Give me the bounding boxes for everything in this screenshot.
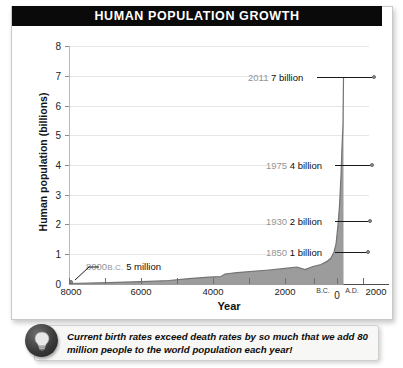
annotation-1930-leader xyxy=(335,221,369,222)
x-tick-mark-3000bc xyxy=(249,278,250,284)
y-tick-label-2: 2 xyxy=(47,219,61,230)
x-tick-mark-1000bc xyxy=(314,278,315,284)
annotation-1975-leader xyxy=(335,165,371,166)
x-tick-label-2000ad: 2000 xyxy=(365,286,386,297)
x-tick-label-2000bc: 2000 xyxy=(274,286,295,297)
y-tick-label-4: 4 xyxy=(47,160,61,171)
annotation-1975-year: 1975 xyxy=(266,160,287,171)
annotation-1850-leader xyxy=(335,252,367,253)
x-tick-mark-7000bc xyxy=(105,278,106,284)
annotation-2011: 2011 7 billion xyxy=(248,72,303,83)
x-tick-label-6000: 6000 xyxy=(130,286,151,297)
annotation-1850-value: 1 billion xyxy=(290,247,322,258)
x-axis-label: Year xyxy=(69,300,389,312)
x-tick-label-bc: B.C. xyxy=(316,287,330,294)
annotation-1930-value: 2 billion xyxy=(290,216,322,227)
annotation-2011-year: 2011 xyxy=(248,72,268,83)
y-tick-label-7: 7 xyxy=(47,70,61,81)
y-tick-label-6: 6 xyxy=(47,100,61,111)
annotation-1975: 1975 4 billion xyxy=(266,160,322,171)
x-tick-label-4000: 4000 xyxy=(202,286,223,297)
annotation-1975-dot xyxy=(370,163,374,167)
annotation-1930-year: 1930 xyxy=(266,216,287,227)
caption-text: Current birth rates exceed death rates b… xyxy=(67,330,370,356)
annotation-8000bc-value: 5 million xyxy=(126,261,161,272)
lightbulb-icon xyxy=(25,324,58,357)
annotation-1850-year: 1850 xyxy=(266,247,287,258)
y-tick-label-3: 3 xyxy=(47,189,61,200)
annotation-1930-dot xyxy=(368,219,372,223)
x-tick-mark-zero xyxy=(337,278,338,284)
x-tick-mark-2000bc xyxy=(285,278,286,284)
y-tick-label-5: 5 xyxy=(47,130,61,141)
x-tick-mark-4000bc xyxy=(213,278,214,284)
x-tick-mark-5000bc xyxy=(177,278,178,284)
annotation-2011-leader xyxy=(317,77,373,78)
annotation-1975-value: 4 billion xyxy=(290,160,322,171)
annotation-1850: 1850 1 billion xyxy=(266,247,322,258)
annotation-2011-value: 7 billion xyxy=(271,72,303,83)
caption-box: Current birth rates exceed death rates b… xyxy=(34,325,379,361)
annotation-8000bc-era: B.C. xyxy=(107,263,123,272)
x-tick-label-8000: 8000 xyxy=(60,286,81,297)
y-tick-label-0: 0 xyxy=(47,279,61,290)
annotation-1930: 1930 2 billion xyxy=(266,216,322,227)
annotation-8000bc-dot xyxy=(69,280,73,284)
plot-area: Human population (billions) 8 7 6 5 4 3 … xyxy=(11,6,393,320)
annotation-1850-dot xyxy=(366,250,370,254)
x-tick-mark-6000bc xyxy=(141,278,142,284)
x-tick-mark-1000ad xyxy=(363,278,364,284)
y-tick-label-8: 8 xyxy=(47,41,61,52)
annotation-2011-dot xyxy=(372,75,376,79)
annotation-8000bc-leader xyxy=(73,265,99,283)
x-tick-label-ad: A.D. xyxy=(345,287,359,294)
y-tick-label-1: 1 xyxy=(47,249,61,260)
